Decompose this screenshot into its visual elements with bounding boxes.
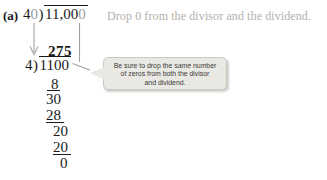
simplified-division-expression: 4)1100: [25, 58, 71, 73]
callout-text-emphasis: same: [174, 62, 191, 69]
callout-text: Be sure to drop the: [114, 62, 175, 69]
work-step: 28: [46, 109, 61, 122]
margin-annotation: Drop 0 from the divisor and the dividend…: [107, 10, 311, 23]
original-divisor-dropped-zero: 0: [31, 6, 39, 22]
work-step: 30: [46, 93, 61, 106]
callout-line-1: Be sure to drop the same number: [104, 62, 226, 71]
callout-bubble: Be sure to drop the same number of zeros…: [103, 57, 227, 90]
callout-line-3: and dividend.: [104, 79, 226, 88]
work-step: 0: [60, 157, 68, 170]
part-label: (a): [3, 9, 18, 23]
work-step: 20: [53, 141, 68, 154]
original-divisor: 4: [23, 6, 31, 22]
simplified-divisor: 4: [25, 57, 33, 73]
callout-line-2: of zeros from both the divisor: [104, 70, 226, 79]
original-dividend-digits: 11,00: [45, 6, 78, 22]
division-bracket: ): [33, 57, 39, 73]
original-division-expression: 40)11,000: [23, 7, 88, 22]
callout-text: number: [191, 62, 216, 69]
original-dividend: 11,000: [44, 5, 88, 22]
divisor-drop-arrowhead: [30, 47, 38, 55]
original-dividend-dropped-zero: 0: [78, 6, 86, 22]
work-step: 20: [53, 125, 68, 138]
callout-tail: [90, 67, 105, 80]
simplified-dividend: 1100: [39, 56, 71, 73]
textbook-long-division-example: (a) 40)11,000 Drop 0 from the divisor an…: [0, 0, 327, 180]
callout-connector-line: [73, 64, 91, 71]
